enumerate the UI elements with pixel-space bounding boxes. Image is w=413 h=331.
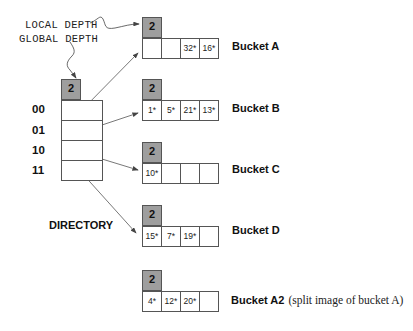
bucket-a2-slot: 20* [180,291,200,312]
directory-index-00: 00 [32,103,45,115]
directory [61,100,103,181]
bucket-b-name: Bucket B [232,102,280,114]
bucket-a2: 4* 12* 20* [142,291,219,312]
bucket-c-local-depth: 2 [142,142,162,163]
bucket-a-slot [142,38,162,59]
bucket-a2-local-depth: 2 [142,270,162,291]
bucket-b-slot: 13* [199,100,219,121]
directory-index-10: 10 [32,144,45,156]
bucket-d-label: Bucket D [232,224,280,236]
bucket-a2-label: Bucket A2(split image of bucket A) [231,294,403,306]
directory-index-01: 01 [32,124,45,136]
local-depth-label: LOCAL DEPTH [25,19,98,31]
bucket-b-slot: 21* [180,100,200,121]
bucket-a2-slot: 12* [161,291,181,312]
directory-slot-11 [61,160,103,181]
bucket-a-label: Bucket A [232,40,279,52]
bucket-a2-slot: 4* [142,291,162,312]
directory-label: DIRECTORY [49,219,113,231]
directory-index-11: 11 [32,164,44,176]
bucket-c-slot [199,163,219,184]
directory-slot-10 [61,140,103,161]
bucket-d-name: Bucket D [232,224,280,236]
bucket-c-slot [180,163,200,184]
bucket-a-slot [161,38,181,59]
bucket-a-local-depth: 2 [142,17,162,38]
bucket-b-slot: 1* [142,100,162,121]
bucket-d-slot [199,226,219,247]
bucket-a2-slot [199,291,219,312]
bucket-a-name: Bucket A [232,40,279,52]
bucket-d: 15* 7* 19* [142,226,219,247]
bucket-c: 10* [142,163,219,184]
global-depth-label: GLOBAL DEPTH [19,33,98,45]
directory-slot-01 [61,120,103,141]
bucket-c-slot: 10* [142,163,162,184]
global-depth-value: 2 [61,79,81,100]
bucket-a-slot: 16* [199,38,219,59]
directory-slot-00 [61,100,103,121]
bucket-a-slot: 32* [180,38,200,59]
bucket-a2-name: Bucket A2 [231,294,284,306]
bucket-b-label: Bucket B [232,102,280,114]
bucket-d-slot: 7* [161,226,181,247]
bucket-b: 1* 5* 21* 13* [142,100,219,121]
bucket-c-slot [161,163,181,184]
bucket-c-label: Bucket C [232,163,280,175]
bucket-b-local-depth: 2 [142,79,162,100]
bucket-d-slot: 19* [180,226,200,247]
bucket-c-name: Bucket C [232,163,280,175]
bucket-b-slot: 5* [161,100,181,121]
bucket-d-slot: 15* [142,226,162,247]
global-depth-arrow [67,42,76,78]
bucket-d-local-depth: 2 [142,205,162,226]
bucket-a2-note: (split image of bucket A) [288,294,403,306]
bucket-a: 32* 16* [142,38,219,59]
